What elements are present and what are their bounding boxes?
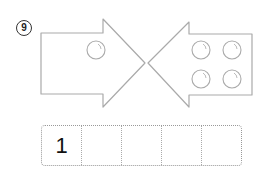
answer-cell-2[interactable] (82, 126, 122, 165)
left-arrow-circle-icon (87, 41, 105, 59)
right-arrow-circles-icon (192, 41, 241, 88)
answer-boxes: 1 (41, 125, 242, 166)
answer-cell-1[interactable]: 1 (42, 126, 82, 165)
left-arrow (41, 19, 145, 107)
right-arrow (148, 22, 252, 107)
answer-cell-4[interactable] (162, 126, 202, 165)
answer-cell-5[interactable] (202, 126, 241, 165)
answer-cell-3[interactable] (122, 126, 162, 165)
